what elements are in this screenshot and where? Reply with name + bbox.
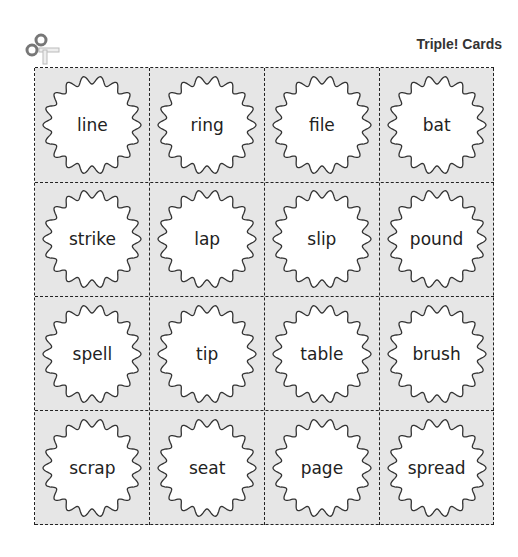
card: table [265, 297, 380, 411]
card: spell [35, 297, 150, 411]
card-word: slip [307, 229, 336, 249]
card-word: scrap [69, 458, 115, 478]
card: seat [150, 411, 265, 525]
card: slip [265, 182, 380, 296]
card-word: pound [410, 229, 464, 249]
card: strike [35, 182, 150, 296]
card-word: line [77, 115, 108, 135]
card-word: table [300, 344, 343, 364]
cut-line [35, 296, 494, 297]
card-word: file [309, 115, 335, 135]
card-word: brush [413, 344, 461, 364]
page-title: Triple! Cards [416, 36, 502, 52]
card: bat [379, 68, 494, 182]
card: lap [150, 182, 265, 296]
card-word: ring [190, 115, 223, 135]
card: page [265, 411, 380, 525]
card: scrap [35, 411, 150, 525]
card-word: spell [73, 344, 113, 364]
card-word: tip [196, 344, 218, 364]
card: file [265, 68, 380, 182]
card-word: lap [194, 229, 220, 249]
card-word: strike [69, 229, 116, 249]
card: spread [379, 411, 494, 525]
card: tip [150, 297, 265, 411]
card-grid: lineringfilebatstrikelapslippoundspellti… [35, 68, 494, 525]
cut-line [379, 68, 380, 525]
cut-line [35, 524, 494, 525]
card-word: page [301, 458, 343, 478]
card: brush [379, 297, 494, 411]
card: line [35, 68, 150, 182]
scissors-icon [24, 30, 68, 66]
cut-line [35, 410, 494, 411]
cut-line [493, 68, 494, 525]
card: pound [379, 182, 494, 296]
card-word: spread [408, 458, 466, 478]
card-word: seat [189, 458, 225, 478]
card-word: bat [423, 115, 451, 135]
card: ring [150, 68, 265, 182]
